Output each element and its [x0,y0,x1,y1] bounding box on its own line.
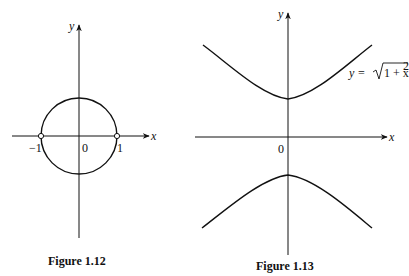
equation-annotation: y = 1 + x 2 [348,59,409,80]
tick-label-neg1: −1 [29,141,42,155]
eq-prefix: y = [348,66,365,80]
eq-exponent: 2 [403,59,409,73]
figures-canvas: y x −1 0 1 y x 0 y = 1 + x 2 [0,0,409,276]
x-axis-label: x [388,130,395,144]
tick-label-pos1: 1 [117,141,123,155]
svg-text:2: 2 [403,59,409,73]
x-axis-label: x [150,129,157,143]
open-point-pos1 [114,133,119,138]
origin-label: 0 [278,142,284,156]
lower-branch-curve [202,175,372,228]
caption-figure-1-12: Figure 1.12 [48,254,106,269]
figure-1-13: y x 0 y = 1 + x 2 [195,7,409,255]
y-axis-label: y [68,19,75,33]
figure-1-12: y x −1 0 1 [12,19,157,238]
origin-label: 0 [82,141,88,155]
open-point-neg1 [38,133,43,138]
y-axis-label: y [277,7,284,21]
caption-figure-1-13: Figure 1.13 [256,259,314,274]
svg-text:y =: y = [348,66,365,80]
